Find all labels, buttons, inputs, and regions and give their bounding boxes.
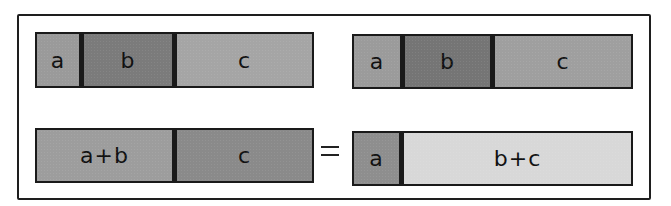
segment-c: c xyxy=(174,128,314,183)
segment-a-plus-b: a+b xyxy=(35,128,174,183)
segment-c: c xyxy=(174,32,314,88)
bar-bottom-right: a b+c xyxy=(352,131,633,186)
equals-sign xyxy=(321,146,339,158)
equals-line-bottom xyxy=(321,154,339,156)
segment-b-plus-c: b+c xyxy=(401,131,633,186)
segment-label: c xyxy=(556,49,569,74)
segment-label: b+c xyxy=(494,146,542,171)
segment-a: a xyxy=(352,34,402,89)
segment-label: b xyxy=(121,48,136,73)
segment-a: a xyxy=(352,131,401,186)
segment-label: c xyxy=(238,143,251,168)
bar-top-right: a b c xyxy=(352,34,633,89)
segment-label: a xyxy=(51,48,65,73)
segment-label: a xyxy=(369,146,383,171)
equals-line-top xyxy=(321,146,339,148)
bar-top-left: a b c xyxy=(35,32,314,88)
segment-label: b xyxy=(440,49,455,74)
segment-c: c xyxy=(492,34,633,89)
segment-b: b xyxy=(81,32,174,88)
bar-bottom-left: a+b c xyxy=(35,128,314,183)
segment-label: a xyxy=(370,49,384,74)
segment-a: a xyxy=(35,32,81,88)
segment-label: c xyxy=(238,48,251,73)
segment-label: a+b xyxy=(80,143,129,168)
segment-b: b xyxy=(402,34,492,89)
